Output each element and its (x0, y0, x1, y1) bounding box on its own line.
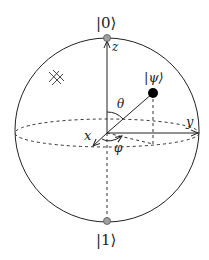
psi-label: |ψ⟩ (144, 70, 164, 85)
psi-point (148, 88, 158, 98)
theta-arc (107, 112, 123, 119)
north-pole (104, 35, 111, 42)
theta-label: θ (117, 97, 125, 111)
ket0-label: |0⟩ (96, 14, 116, 32)
phi-label: φ (114, 141, 123, 155)
south-pole (104, 218, 111, 225)
ket1-label: |1⟩ (96, 231, 116, 249)
z-label: z (111, 40, 119, 54)
bloch-sphere-diagram: |0⟩ |1⟩ |ψ⟩ z y x θ φ (0, 0, 209, 260)
hatch-icon (49, 70, 64, 85)
y-label: y (185, 114, 194, 129)
x-axis (93, 133, 107, 146)
x-label: x (84, 128, 92, 143)
